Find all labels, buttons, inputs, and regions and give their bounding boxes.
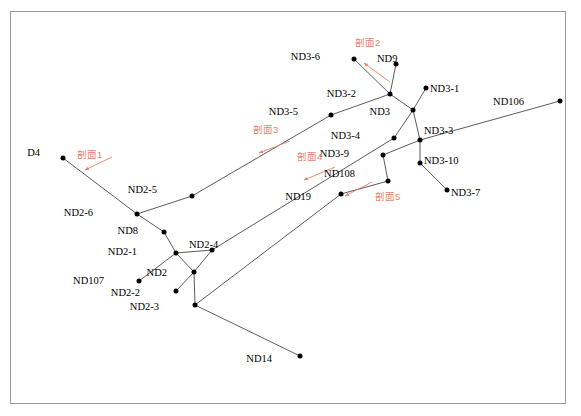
node-dot-ND106[interactable] — [558, 99, 563, 104]
section-label-sec1: 剖面1 — [77, 150, 102, 160]
edge-ND3-ND3-4 — [394, 110, 413, 138]
node-dot-ND107[interactable] — [137, 279, 142, 284]
edge-D4-ND2-6 — [63, 158, 137, 214]
node-dot-ND2-2[interactable] — [174, 289, 179, 294]
node-label-ND106: ND106 — [493, 97, 524, 108]
node-dot-ND2-6[interactable] — [135, 212, 140, 217]
edge-ND3-9-ND108 — [383, 155, 388, 181]
section-arrow-sec3 — [259, 141, 290, 153]
edge-ND3-3-ND3-9 — [383, 140, 420, 155]
node-label-ND3-2: ND3-2 — [327, 89, 356, 100]
edge-ND3-10-ND3-7 — [420, 163, 447, 190]
node-label-ND2-5: ND2-5 — [128, 185, 157, 196]
node-label-ND3-7: ND3-7 — [451, 188, 480, 199]
node-dot-ND108[interactable] — [386, 179, 391, 184]
node-dot-ND2-3[interactable] — [193, 303, 198, 308]
node-label-ND3-9: ND3-9 — [320, 149, 349, 160]
node-layer — [61, 57, 563, 359]
node-label-ND2-1: ND2-1 — [108, 247, 137, 258]
node-label-ND107: ND107 — [73, 276, 104, 287]
node-dot-ND2-5[interactable] — [190, 194, 195, 199]
node-dot-ND19[interactable] — [339, 192, 344, 197]
node-label-ND2: ND2 — [147, 268, 167, 279]
node-dot-ND3-7[interactable] — [445, 188, 450, 193]
section-label-sec2: 剖面2 — [355, 38, 380, 48]
edge-ND3-ND3-3 — [413, 110, 420, 140]
node-label-ND108: ND108 — [324, 169, 355, 180]
node-label-ND14: ND14 — [246, 354, 272, 365]
diagram-canvas: D4ND2-6ND2-5ND8ND2-1ND2-4ND2ND107ND2-2ND… — [0, 0, 581, 416]
edge-ND2-6-ND2-5 — [137, 196, 192, 214]
edge-ND2-6-ND8 — [137, 214, 164, 232]
node-label-ND2-4: ND2-4 — [189, 240, 218, 251]
node-label-ND3-4: ND3-4 — [331, 131, 360, 142]
edge-ND3-2-ND3 — [390, 94, 413, 110]
node-dot-ND14[interactable] — [298, 354, 303, 359]
node-label-ND2-2: ND2-2 — [111, 288, 140, 299]
node-dot-ND3-9[interactable] — [381, 153, 386, 158]
node-dot-ND3-1[interactable] — [424, 86, 429, 91]
node-label-ND9: ND9 — [377, 54, 397, 65]
node-label-ND3-5: ND3-5 — [269, 107, 298, 118]
node-dot-ND3-6[interactable] — [352, 57, 357, 62]
section-arrow-sec5 — [345, 182, 372, 196]
section-label-sec5: 剖面5 — [375, 192, 400, 202]
section-label-sec3: 剖面3 — [253, 125, 278, 135]
edge-ND8-ND2-1 — [164, 232, 176, 253]
node-dot-ND3[interactable] — [411, 108, 416, 113]
node-dot-ND2[interactable] — [192, 270, 197, 275]
node-label-ND2-3: ND2-3 — [130, 302, 159, 313]
node-dot-ND3-5[interactable] — [329, 113, 334, 118]
edge-ND2-ND2-3 — [194, 272, 195, 305]
edge-ND2-3-ND14 — [195, 305, 300, 356]
node-label-ND3-10: ND3-10 — [424, 156, 458, 167]
node-label-ND3-3: ND3-3 — [424, 126, 453, 137]
edge-ND2-1-ND2 — [176, 253, 194, 272]
edge-ND3-ND3-1 — [413, 88, 426, 110]
edge-ND2-ND2-4 — [194, 250, 212, 272]
node-label-ND3-6: ND3-6 — [291, 52, 320, 63]
node-dot-ND3-3[interactable] — [418, 138, 423, 143]
node-label-ND2-6: ND2-6 — [64, 208, 93, 219]
section-label-sec4: 剖面4 — [297, 152, 322, 162]
node-label-ND3-1: ND3-1 — [430, 84, 459, 95]
edge-ND2-ND2-2 — [176, 272, 194, 291]
node-dot-ND3-4[interactable] — [392, 136, 397, 141]
node-label-ND3: ND3 — [370, 107, 390, 118]
node-label-ND8: ND8 — [118, 226, 138, 237]
node-dot-D4[interactable] — [61, 156, 66, 161]
section-arrowhead-sec3 — [259, 150, 263, 153]
node-dot-ND3-10[interactable] — [418, 161, 423, 166]
node-dot-ND8[interactable] — [162, 230, 167, 235]
node-dot-ND2-1[interactable] — [174, 251, 179, 256]
node-label-D4: D4 — [27, 148, 40, 159]
edge-ND9-ND3-2 — [390, 64, 396, 94]
node-dot-ND3-2[interactable] — [388, 92, 393, 97]
node-label-ND19: ND19 — [285, 192, 311, 203]
